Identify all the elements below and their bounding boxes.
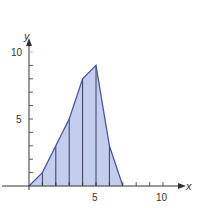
x-axis-arrow-icon <box>178 183 186 189</box>
x-axis-label: x <box>185 180 192 192</box>
y-tick-label-5: 5 <box>16 114 22 125</box>
x-tick-label-5: 5 <box>92 192 98 203</box>
area-fill <box>29 65 123 186</box>
plot-area <box>2 38 186 190</box>
y-tick-label-10: 10 <box>11 47 23 58</box>
area-chart: y x 5 10 5 10 <box>0 0 208 208</box>
x-tick-label-10: 10 <box>156 192 168 203</box>
